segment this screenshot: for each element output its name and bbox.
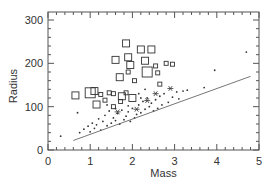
square-point [156, 71, 160, 75]
data-marks [60, 40, 247, 137]
ticks [48, 12, 259, 150]
dot-point [113, 117, 115, 119]
y-tick-label: 100 [25, 101, 43, 113]
dot-point [245, 51, 247, 53]
square-point [72, 92, 79, 99]
square-point [137, 46, 144, 53]
y-tick-label: 0 [37, 144, 43, 156]
square-point [99, 93, 103, 97]
dot-point [98, 118, 100, 120]
dot-point [178, 98, 180, 100]
square-point [116, 74, 123, 81]
dot-point [144, 88, 146, 90]
y-tick-label: 200 [25, 57, 43, 69]
dot-point [146, 97, 148, 99]
dot-point [148, 106, 150, 108]
dot-point [136, 114, 138, 116]
dot-point [176, 91, 178, 93]
square-point [103, 98, 107, 102]
dot-point [150, 102, 152, 104]
dot-point [138, 104, 140, 106]
axes: 0123450100200300 [25, 12, 262, 167]
dot-point [129, 121, 131, 123]
square-point [126, 70, 130, 74]
dot-point [167, 101, 169, 103]
scatter-chart: 0123450100200300 Mass Radius [0, 0, 278, 187]
square-point [127, 62, 134, 69]
dot-point [182, 90, 184, 92]
square-point [164, 61, 168, 65]
dot-point [140, 97, 142, 99]
plot-frame [48, 12, 259, 150]
dot-point [60, 135, 62, 137]
dot-point [121, 109, 123, 111]
square-point [142, 57, 149, 64]
tick-labels: 0123450100200300 [25, 14, 262, 167]
dot-point [87, 125, 89, 127]
dot-point [123, 119, 125, 121]
dot-point [115, 108, 117, 110]
x-tick-label: 3 [172, 155, 178, 167]
dot-point [83, 128, 85, 130]
square-point [133, 79, 137, 83]
dot-point [91, 122, 93, 124]
dot-point [89, 131, 91, 133]
dot-point [155, 99, 157, 101]
square-point [158, 82, 162, 86]
dot-point [106, 104, 108, 106]
x-tick-label: 0 [45, 155, 51, 167]
dot-point [132, 108, 134, 110]
square-point [85, 88, 95, 98]
dot-point [172, 96, 174, 98]
dot-point [102, 121, 104, 123]
dot-point [144, 108, 146, 110]
square-point [111, 92, 115, 96]
x-tick-label: 4 [214, 155, 220, 167]
dot-point [127, 105, 129, 107]
dot-point [159, 95, 161, 97]
dot-point [203, 87, 205, 89]
square-point [142, 67, 152, 77]
square-point [170, 62, 174, 66]
y-axis-title: Radius [7, 68, 19, 103]
x-tick-label: 1 [87, 155, 93, 167]
square-point [123, 40, 130, 47]
square-point [154, 64, 158, 68]
square-point [148, 46, 155, 53]
dot-point [142, 101, 144, 103]
x-tick-label: 2 [129, 155, 135, 167]
dot-point [138, 93, 140, 95]
asterisk-point [134, 107, 140, 112]
square-point [125, 54, 132, 61]
dot-point [96, 124, 98, 126]
dot-point [125, 115, 127, 117]
dot-point [161, 104, 163, 106]
asterisk-point [144, 98, 150, 103]
y-tick-label: 300 [25, 14, 43, 26]
asterisk-point [153, 91, 159, 96]
dot-point [77, 112, 79, 114]
dot-point [106, 125, 108, 127]
dot-point [108, 110, 110, 112]
dot-point [79, 132, 81, 134]
dot-point [104, 114, 106, 116]
dot-point [110, 122, 112, 124]
dot-point [140, 112, 142, 114]
dot-point [127, 111, 129, 113]
dot-point [214, 69, 216, 71]
dot-point [163, 93, 165, 95]
x-tick-label: 5 [256, 155, 262, 167]
square-point [112, 56, 119, 63]
dot-point [115, 120, 117, 122]
dot-point [157, 108, 159, 110]
square-point [129, 95, 136, 102]
dot-point [186, 89, 188, 91]
asterisk-point [167, 86, 173, 91]
square-point [93, 101, 100, 108]
square-point [91, 88, 98, 95]
dot-point [94, 127, 96, 129]
x-axis-title: Mass [150, 167, 177, 179]
square-point [107, 91, 111, 95]
